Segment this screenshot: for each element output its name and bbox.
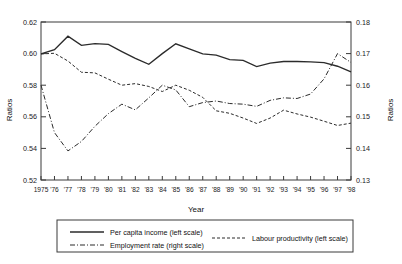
x-tick-label: '83 xyxy=(145,186,154,193)
y-tick-label: 0.54 xyxy=(23,144,37,153)
series-line xyxy=(41,53,351,125)
x-tick-label: '76 xyxy=(50,186,59,193)
series-line xyxy=(41,36,351,72)
y2-tick-label: 0.18 xyxy=(356,18,370,27)
y-tick-label: 0.62 xyxy=(23,18,37,27)
x-tick-label: '93 xyxy=(279,186,288,193)
x-tick-label: '95 xyxy=(306,186,315,193)
x-axis-ticks: 1975'76'77'78'79'80'81'82'83'84'85'86'87… xyxy=(34,176,356,193)
x-tick-label: '96 xyxy=(320,186,329,193)
x-tick-label: '94 xyxy=(293,186,302,193)
x-tick-label: '91 xyxy=(252,186,261,193)
y2-tick-label: 0.17 xyxy=(356,49,370,58)
x-tick-label: '79 xyxy=(91,186,100,193)
line-chart: Ratios Ratios Year 0.520.540.560.580.600… xyxy=(0,0,402,264)
x-tick-label: '85 xyxy=(171,186,180,193)
y2-tick-label: 0.16 xyxy=(356,81,370,90)
x-tick-label: '90 xyxy=(239,186,248,193)
x-axis-title: Year xyxy=(188,205,205,214)
legend-label: Per capita income (left scale) xyxy=(110,228,203,237)
chart-figure: Ratios Ratios Year 0.520.540.560.580.600… xyxy=(0,0,402,264)
x-tick-label: '77 xyxy=(64,186,73,193)
x-tick-label: '87 xyxy=(198,186,207,193)
x-tick-label: '97 xyxy=(333,186,342,193)
x-tick-label: '86 xyxy=(185,186,194,193)
y-axis-ticks: 0.520.540.560.580.600.62 xyxy=(23,18,46,185)
y-tick-label: 0.52 xyxy=(23,176,37,185)
y-tick-label: 0.58 xyxy=(23,81,37,90)
series-group xyxy=(41,36,351,151)
y-tick-label: 0.56 xyxy=(23,112,37,121)
y2-tick-label: 0.14 xyxy=(356,144,370,153)
legend-label: Employment rate (right scale) xyxy=(110,241,204,250)
x-tick-label: 1975 xyxy=(34,186,49,193)
x-tick-label: '81 xyxy=(118,186,127,193)
y2-axis-ticks: 0.130.140.150.160.170.18 xyxy=(346,18,370,185)
x-tick-label: '88 xyxy=(212,186,221,193)
x-tick-label: '84 xyxy=(158,186,167,193)
x-tick-label: '80 xyxy=(104,186,113,193)
legend-group: Per capita income (left scale)Employment… xyxy=(70,228,348,250)
y2-tick-label: 0.13 xyxy=(356,176,370,185)
y-axis-title: Ratios xyxy=(5,99,14,122)
y2-tick-label: 0.15 xyxy=(356,112,370,121)
series-line xyxy=(41,54,351,151)
y2-axis-title: Ratios xyxy=(386,99,395,122)
x-tick-label: '92 xyxy=(266,186,275,193)
x-tick-label: '78 xyxy=(77,186,86,193)
plot-frame xyxy=(41,22,351,180)
x-tick-label: '98 xyxy=(347,186,356,193)
legend-label: Labour productivity (left scale) xyxy=(252,234,348,243)
x-tick-label: '89 xyxy=(225,186,234,193)
x-tick-label: '82 xyxy=(131,186,140,193)
y-tick-label: 0.60 xyxy=(23,49,37,58)
